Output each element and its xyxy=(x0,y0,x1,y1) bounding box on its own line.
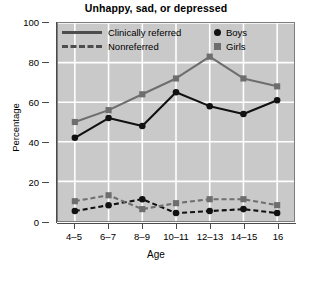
legend-label-girls: Girls xyxy=(226,41,246,52)
data-point-3-1 xyxy=(105,192,111,198)
y-tick-label-20: 20 xyxy=(28,177,39,188)
data-point-0-4 xyxy=(206,103,213,110)
data-point-0-6 xyxy=(274,97,281,104)
y-tick-label-100: 100 xyxy=(23,17,39,28)
data-point-0-2 xyxy=(139,123,146,130)
y-tick-mark-60 xyxy=(42,102,49,103)
chart-figure: Unhappy, sad, or depressed 020406080100 … xyxy=(0,0,312,281)
dashed-line-icon xyxy=(62,45,102,48)
x-tick-label-0: 4–5 xyxy=(66,231,82,242)
y-axis-title: Percentage xyxy=(10,85,21,171)
square-marker-icon xyxy=(214,43,221,50)
x-tick-label-5: 14–15 xyxy=(231,231,257,242)
legend-label-clinically-referred: Clinically referred xyxy=(108,27,181,38)
data-point-2-3 xyxy=(173,210,180,217)
data-point-2-0 xyxy=(72,208,79,215)
x-tick-mark-4 xyxy=(210,223,211,229)
data-point-3-3 xyxy=(173,200,179,206)
x-tick-mark-2 xyxy=(142,223,143,229)
legend-item-clinically-referred: Clinically referred xyxy=(62,27,181,38)
data-point-1-5 xyxy=(240,75,246,81)
data-point-1-6 xyxy=(274,83,280,89)
data-point-2-4 xyxy=(206,208,213,215)
y-tick-mark-0 xyxy=(42,222,49,223)
data-point-3-5 xyxy=(240,196,246,202)
x-tick-label-1: 6–7 xyxy=(100,231,116,242)
chart-legend: Clinically referred Nonreferred Boys Gir… xyxy=(62,27,290,57)
x-tick-mark-3 xyxy=(176,223,177,229)
x-tick-mark-0 xyxy=(74,223,75,229)
data-point-3-6 xyxy=(274,202,280,208)
y-tick-mark-100 xyxy=(42,22,49,23)
data-point-2-2 xyxy=(139,196,146,203)
data-point-1-2 xyxy=(139,91,145,97)
data-point-1-0 xyxy=(72,119,78,125)
y-tick-label-40: 40 xyxy=(28,137,39,148)
y-tick-mark-80 xyxy=(42,62,49,63)
x-tick-label-2: 8–9 xyxy=(134,231,150,242)
legend-label-boys: Boys xyxy=(226,27,247,38)
legend-item-girls: Girls xyxy=(214,41,246,52)
data-point-0-1 xyxy=(105,115,112,122)
x-axis-title: Age xyxy=(0,249,312,260)
y-tick-label-80: 80 xyxy=(28,57,39,68)
data-point-3-4 xyxy=(207,196,213,202)
x-tick-label-3: 10–11 xyxy=(163,231,189,242)
solid-line-icon xyxy=(62,31,102,34)
legend-label-nonreferred: Nonreferred xyxy=(108,41,159,52)
legend-item-nonreferred: Nonreferred xyxy=(62,41,159,52)
y-tick-label-60: 60 xyxy=(28,97,39,108)
data-point-2-6 xyxy=(274,210,281,217)
x-tick-label-6: 16 xyxy=(273,231,284,242)
data-point-3-2 xyxy=(139,206,145,212)
data-point-0-0 xyxy=(72,135,79,142)
y-axis-line xyxy=(56,22,57,223)
y-tick-mark-40 xyxy=(42,142,49,143)
data-point-3-0 xyxy=(72,198,78,204)
data-point-0-3 xyxy=(173,89,180,96)
x-tick-label-4: 12–13 xyxy=(197,231,223,242)
circle-marker-icon xyxy=(214,29,221,36)
y-tick-mark-20 xyxy=(42,182,49,183)
x-tick-mark-5 xyxy=(244,223,245,229)
data-point-1-1 xyxy=(105,107,111,113)
data-point-2-1 xyxy=(105,202,112,209)
x-tick-mark-6 xyxy=(278,223,279,229)
data-point-2-5 xyxy=(240,206,247,213)
data-point-1-3 xyxy=(173,75,179,81)
x-tick-mark-1 xyxy=(108,223,109,229)
data-point-0-5 xyxy=(240,111,247,118)
legend-item-boys: Boys xyxy=(214,27,247,38)
y-tick-label-0: 0 xyxy=(34,217,39,228)
